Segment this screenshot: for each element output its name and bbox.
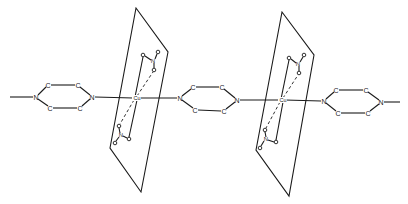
coordination-plane-2 [256, 12, 314, 196]
atom-n: N [378, 99, 383, 106]
oxygen-atom [127, 137, 131, 141]
atom-c: C [221, 108, 226, 115]
oxygen-atom [258, 146, 262, 150]
oxygen-atom [287, 56, 291, 60]
atom-n: N [321, 98, 326, 105]
atom-n: N [177, 95, 182, 102]
oxygen-atom [274, 140, 278, 144]
pyrazine-ring-right: N C C N C C [321, 87, 383, 117]
atom-c: C [365, 110, 370, 117]
atom-c: C [192, 107, 197, 114]
atom-c: C [45, 82, 50, 89]
atom-n: N [296, 61, 300, 67]
oxygen-atom [263, 128, 267, 132]
chain-bonds [10, 97, 400, 102]
pyrazine-copper-nitrate-chain-diagram: N C C N C C N C C N C C N C C N C C [0, 0, 408, 204]
atom-c: C [363, 87, 368, 94]
atom-n: N [264, 136, 268, 142]
oxygen-atom [302, 53, 306, 57]
atom-n: N [89, 94, 94, 101]
atom-cu: Cu [133, 95, 140, 101]
atom-c: C [47, 105, 52, 112]
atom-c: C [75, 82, 80, 89]
atom-c: C [333, 87, 338, 94]
atom-c: C [219, 84, 224, 91]
atom-c: C [77, 105, 82, 112]
oxygen-atom [156, 50, 160, 54]
atom-n: N [33, 94, 38, 101]
oxygen-atom [152, 68, 156, 72]
oxygen-atom [113, 141, 117, 145]
oxygen-atom [141, 53, 145, 57]
atom-c: C [335, 110, 340, 117]
atom-n: N [119, 132, 123, 138]
pyrazine-ring-middle: N C C N C C [177, 84, 239, 115]
atom-n: N [234, 97, 239, 104]
atom-cu: Cu [279, 97, 286, 103]
oxygen-atom [117, 124, 121, 128]
pyrazine-ring-left: N C C N C C [33, 82, 94, 112]
atom-n: N [151, 58, 155, 64]
oxygen-atom [297, 71, 301, 75]
atom-c: C [190, 84, 195, 91]
